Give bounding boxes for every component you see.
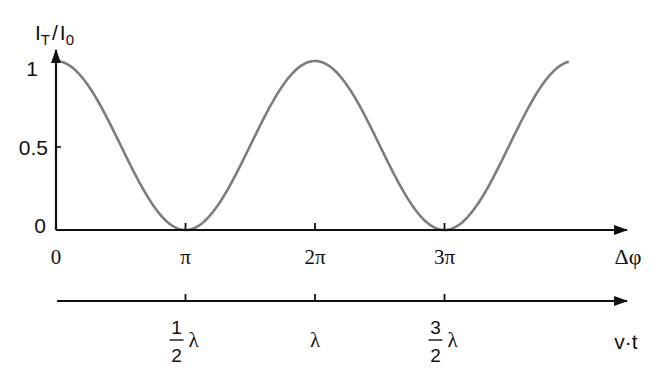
fraction-numerator: 3: [430, 317, 441, 338]
lambda-label: λ: [188, 328, 199, 352]
intensity-curve: [56, 61, 569, 230]
y-axis-label: IT/I0: [35, 21, 74, 48]
y-tick-label-0: 0: [34, 214, 46, 237]
x-tick-label: π: [180, 245, 191, 269]
fraction-denominator: 2: [171, 345, 182, 366]
x-tick-label: 2π: [304, 245, 326, 269]
y-tick-label-0.5: 0.5: [19, 136, 48, 159]
fraction-numerator: 1: [171, 317, 182, 338]
x-tick-label: 0: [51, 245, 62, 269]
x-tick-label: 3π: [434, 245, 456, 269]
fraction-denominator: 2: [430, 345, 441, 366]
x-ticks-distance: 12λλ32λ: [170, 294, 459, 366]
lambda-label: λ: [310, 328, 321, 352]
interference-chart: 0π2π3π 12λλ32λ IT/I0 1 0.5 0 Δφ v·t: [0, 0, 663, 387]
y-tick-label-1: 1: [26, 57, 38, 80]
x-axis-label-phase: Δφ: [615, 244, 642, 269]
lambda-label: λ: [447, 328, 458, 352]
x-axis-label-distance: v·t: [614, 330, 637, 353]
